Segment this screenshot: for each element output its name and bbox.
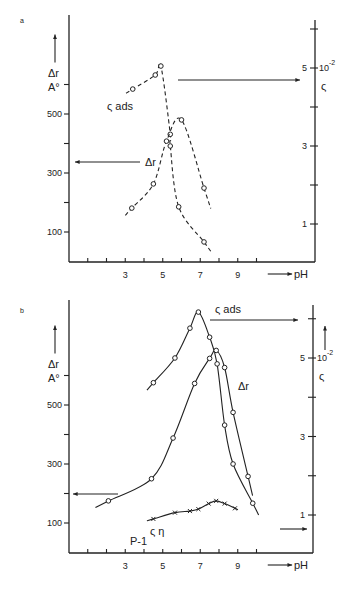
data-point bbox=[202, 186, 207, 191]
left-y-tick-label: 100 bbox=[47, 227, 62, 237]
left-y-label-unit: A° bbox=[48, 372, 60, 384]
series-line-ς_ads bbox=[126, 63, 212, 253]
panel-label: a bbox=[20, 17, 24, 24]
data-point bbox=[130, 206, 135, 211]
ph-arrow-head bbox=[288, 563, 293, 567]
data-point bbox=[214, 348, 219, 353]
x-tick-label: 5 bbox=[160, 561, 165, 571]
x-axis-label: pH bbox=[294, 559, 308, 571]
right-ylabel-arrow-head bbox=[323, 326, 327, 331]
data-point bbox=[215, 362, 220, 367]
series-label: ς ads bbox=[215, 303, 242, 315]
data-point bbox=[176, 205, 181, 210]
arrow-to-right-axis-head bbox=[295, 78, 300, 82]
data-point bbox=[231, 462, 236, 467]
data-point bbox=[196, 310, 201, 315]
right-y-label-unit: 10 bbox=[319, 63, 329, 73]
left-y-tick-label: 500 bbox=[47, 109, 62, 119]
data-point bbox=[202, 240, 207, 245]
series-label: ς ads bbox=[107, 100, 134, 112]
panel-a: a3579pH100300500ΔrA°13510-2ςς adsΔr bbox=[20, 15, 335, 280]
panel-b: b3579pH100300500ΔrA°13510-2ςς adsΔrς ηP-… bbox=[20, 300, 333, 571]
right-y-label-exp: -2 bbox=[327, 349, 333, 356]
arrow-to-right-axis-low-head bbox=[302, 527, 307, 531]
data-point bbox=[106, 499, 111, 504]
data-point bbox=[171, 436, 176, 441]
right-y-tick-label: 5 bbox=[302, 63, 307, 73]
panel-label: b bbox=[20, 307, 24, 314]
x-tick-label: 3 bbox=[123, 561, 128, 571]
right-y-label-symbol: ς bbox=[321, 80, 326, 92]
data-point bbox=[168, 144, 173, 149]
left-ylabel-arrow-head bbox=[53, 35, 57, 40]
figure: a3579pH100300500ΔrA°13510-2ςς adsΔr b357… bbox=[0, 0, 351, 590]
data-point bbox=[250, 501, 255, 506]
data-point bbox=[173, 356, 178, 361]
data-point bbox=[164, 139, 169, 144]
data-point bbox=[207, 356, 212, 361]
right-y-label-symbol: ς bbox=[319, 370, 324, 382]
data-point bbox=[151, 182, 156, 187]
arrow-to-right-axis-head bbox=[293, 318, 298, 322]
data-point bbox=[207, 335, 212, 340]
right-y-tick-label: 1 bbox=[300, 510, 305, 520]
right-y-tick-label: 1 bbox=[302, 219, 307, 229]
right-y-tick-label: 3 bbox=[300, 432, 305, 442]
right-y-label-unit: 10 bbox=[317, 353, 327, 363]
left-ylabel-arrow-head bbox=[53, 326, 57, 331]
data-point bbox=[246, 474, 251, 479]
x-axis-label: pH bbox=[294, 268, 308, 280]
left-y-label-unit: A° bbox=[48, 81, 60, 93]
series-label: Δr bbox=[145, 156, 156, 168]
x-tick-label: 7 bbox=[198, 561, 203, 571]
series-label: ς η bbox=[150, 525, 164, 537]
data-point bbox=[159, 64, 164, 69]
series-label: Δr bbox=[238, 380, 249, 392]
data-point bbox=[222, 365, 227, 370]
ph-arrow-head bbox=[288, 272, 293, 276]
left-y-tick-label: 300 bbox=[47, 459, 62, 469]
data-point bbox=[149, 476, 154, 481]
left-y-tick-label: 100 bbox=[47, 518, 62, 528]
data-point bbox=[222, 423, 227, 428]
x-tick-label: 3 bbox=[123, 270, 128, 280]
left-y-tick-label: 500 bbox=[47, 400, 62, 410]
data-point bbox=[130, 87, 135, 92]
x-tick-label: 5 bbox=[160, 270, 165, 280]
right-y-label-exp: -2 bbox=[329, 59, 335, 66]
data-point bbox=[179, 118, 184, 123]
data-point bbox=[192, 381, 197, 386]
left-y-label-dr: Δr bbox=[48, 358, 59, 370]
data-point bbox=[231, 410, 236, 415]
x-tick-label: 9 bbox=[235, 561, 240, 571]
series-line-Δr bbox=[95, 350, 252, 507]
left-y-label-dr: Δr bbox=[48, 67, 59, 79]
x-tick-label: 9 bbox=[235, 270, 240, 280]
x-tick-label: 7 bbox=[198, 270, 203, 280]
right-y-tick-label: 3 bbox=[302, 141, 307, 151]
left-y-tick-label: 300 bbox=[47, 168, 62, 178]
series-line-ς_ads bbox=[147, 312, 259, 515]
arrow-to-left-axis-head bbox=[73, 492, 78, 496]
right-y-tick-label: 5 bbox=[300, 353, 305, 363]
data-point bbox=[151, 380, 156, 385]
data-point bbox=[188, 326, 193, 331]
data-point bbox=[153, 73, 158, 78]
annotation: P-1 bbox=[130, 535, 147, 547]
arrow-to-left-axis-head bbox=[75, 160, 80, 164]
